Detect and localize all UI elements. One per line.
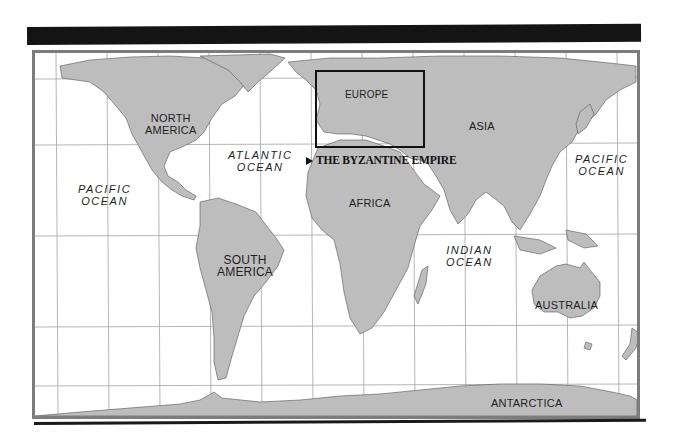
europe-highlight-box (315, 70, 425, 148)
label-africa: AFRICA (349, 197, 391, 209)
label-atlantic-ocean: ATLANTIC OCEAN (228, 149, 292, 173)
label-asia: ASIA (469, 120, 495, 132)
world-map (0, 0, 675, 447)
triangle-pointer-icon (306, 157, 313, 165)
label-europe: EUROPE (345, 89, 388, 101)
label-australia: AUSTRALIA (535, 299, 598, 311)
label-pacific-ocean-east: PACIFIC OCEAN (575, 153, 628, 177)
byzantine-empire-callout[interactable]: THE BYZANTINE EMPIRE (306, 154, 456, 166)
label-antarctica: ANTARCTICA (491, 397, 562, 409)
label-north-america: NORTH AMERICA (145, 112, 197, 136)
label-south-america: SOUTH AMERICA (217, 254, 273, 278)
label-pacific-ocean-west: PACIFIC OCEAN (78, 183, 131, 207)
label-indian-ocean: INDIAN OCEAN (446, 244, 493, 268)
byzantine-empire-label: THE BYZANTINE EMPIRE (316, 154, 456, 166)
